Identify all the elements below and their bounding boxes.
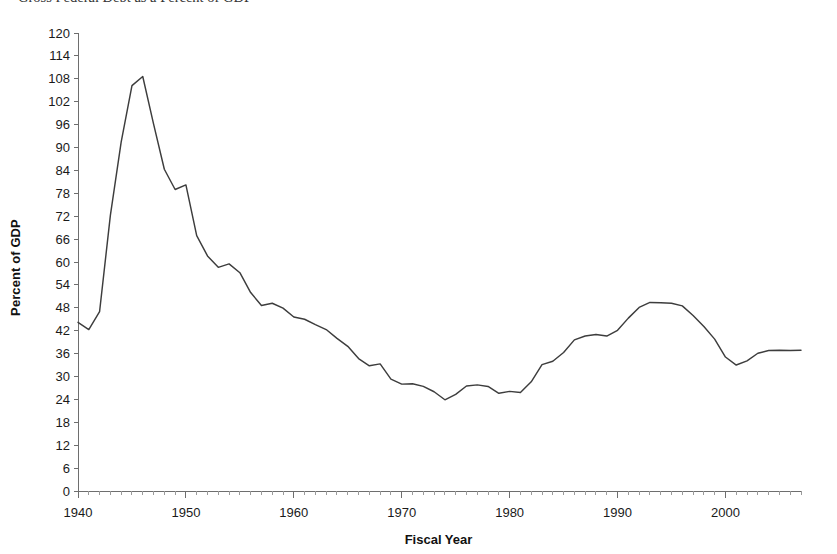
x-tick-label: 1970 [387, 505, 416, 520]
x-tick-label: 1980 [495, 505, 524, 520]
x-tick-label: 1960 [279, 505, 308, 520]
x-axis-title: Fiscal Year [0, 532, 837, 547]
y-tick-label: 78 [56, 186, 70, 201]
y-tick-label: 24 [56, 392, 70, 407]
y-tick-label: 0 [63, 484, 70, 499]
y-tick-label: 90 [56, 140, 70, 155]
y-tick-label: 102 [48, 94, 70, 109]
chart-figure: Gross Federal Debt as a Percent of GDP P… [0, 0, 837, 554]
y-tick-label: 6 [63, 461, 70, 476]
y-tick-label: 48 [56, 300, 70, 315]
y-tick-label: 84 [56, 163, 70, 178]
y-tick-label: 42 [56, 323, 70, 338]
x-tick-label: 2000 [711, 505, 740, 520]
y-tick-label: 120 [48, 26, 70, 41]
y-tick-label: 96 [56, 117, 70, 132]
y-tick-label: 72 [56, 209, 70, 224]
y-tick-label: 36 [56, 346, 70, 361]
x-axis-title-label: Fiscal Year [405, 532, 473, 547]
x-tick-label: 1950 [171, 505, 200, 520]
y-tick-label: 114 [49, 48, 70, 63]
x-tick-label: 1940 [64, 505, 93, 520]
plot-area: 0612182430364248546066727884909610210811… [0, 0, 837, 554]
y-tick-label: 12 [56, 438, 70, 453]
y-tick-label: 66 [56, 232, 70, 247]
y-tick-label: 108 [48, 71, 70, 86]
data-series-line [78, 77, 801, 400]
y-tick-label: 18 [56, 415, 70, 430]
y-tick-label: 54 [56, 277, 70, 292]
y-tick-label: 60 [56, 255, 70, 270]
y-tick-label: 30 [56, 369, 70, 384]
x-tick-label: 1990 [603, 505, 632, 520]
